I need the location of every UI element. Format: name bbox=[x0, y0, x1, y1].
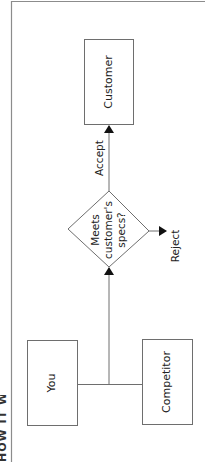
accept-label: Accept bbox=[93, 140, 105, 176]
decision-line-2: customer's bbox=[102, 201, 114, 259]
decision-line-3: specs? bbox=[115, 212, 127, 247]
competitor-node: Competitor bbox=[143, 340, 193, 425]
cutoff-title: HOW IT WORKS bbox=[0, 395, 8, 462]
reject-edge: Reject bbox=[149, 230, 181, 263]
reject-label: Reject bbox=[169, 230, 181, 263]
flowchart-diagram: Customer Accept Meets customer's specs? … bbox=[0, 0, 205, 462]
you-label: You bbox=[45, 374, 58, 394]
merge-edge bbox=[78, 268, 142, 385]
customer-node: Customer bbox=[85, 40, 134, 125]
decision-node: Meets customer's specs? bbox=[68, 191, 149, 267]
you-node: You bbox=[28, 341, 78, 426]
decision-line-1: Meets bbox=[89, 214, 101, 246]
customer-label: Customer bbox=[102, 55, 115, 109]
competitor-label: Competitor bbox=[160, 351, 173, 413]
accept-edge: Accept bbox=[93, 126, 109, 191]
cutoff-title-text: HOW IT WORKS bbox=[0, 395, 8, 462]
